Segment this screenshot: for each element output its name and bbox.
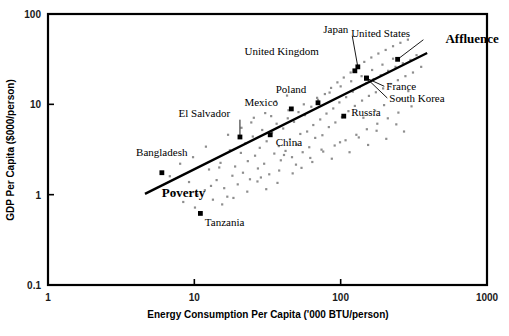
- data-point: [382, 87, 384, 89]
- data-point: [284, 150, 286, 152]
- data-point: [273, 152, 275, 154]
- data-point: [263, 163, 265, 165]
- data-point: [223, 187, 225, 189]
- data-point: [355, 134, 357, 136]
- data-point: [325, 112, 327, 114]
- data-point: [218, 166, 220, 168]
- country-marker: [238, 135, 243, 140]
- data-point: [247, 160, 249, 162]
- country-marker: [364, 76, 369, 81]
- country-marker: [289, 107, 294, 112]
- data-point: [257, 167, 259, 169]
- country-label: Bangladesh: [136, 146, 188, 158]
- data-point: [385, 49, 387, 51]
- data-point: [219, 162, 221, 164]
- data-point: [265, 188, 267, 190]
- data-point: [334, 144, 336, 146]
- unlabeled-points-group: [169, 39, 423, 209]
- data-point: [240, 152, 242, 154]
- data-point: [310, 106, 312, 108]
- country-label: Tanzania: [205, 216, 245, 228]
- data-point: [242, 172, 244, 174]
- data-point: [376, 123, 378, 125]
- trend-line: [145, 53, 427, 194]
- data-point: [231, 175, 233, 177]
- data-point: [387, 117, 389, 119]
- poverty-annotation: Poverty: [162, 185, 206, 200]
- figure-container: 11010010000.1110100 BangladeshTanzaniaEl…: [0, 0, 509, 336]
- data-point: [412, 71, 414, 73]
- data-point: [306, 130, 308, 132]
- x-tick-label: 1: [45, 292, 51, 303]
- data-point: [381, 64, 383, 66]
- data-point: [392, 45, 394, 47]
- data-point: [314, 137, 316, 139]
- country-label: United Kingdom: [244, 45, 319, 57]
- data-point: [312, 124, 314, 126]
- data-point: [370, 56, 372, 58]
- data-point: [259, 147, 261, 149]
- x-axis-title: Energy Consumption Per Capita ('000 BTU/…: [147, 309, 388, 320]
- data-point: [350, 71, 352, 73]
- trendline-group: [145, 53, 427, 194]
- data-point: [399, 42, 401, 44]
- data-point: [287, 117, 289, 119]
- country-marker: [341, 114, 346, 119]
- country-label: United States: [351, 27, 410, 39]
- data-point: [336, 81, 338, 83]
- data-point: [169, 175, 171, 177]
- data-point: [363, 61, 365, 63]
- data-point: [268, 173, 270, 175]
- data-point: [375, 91, 377, 93]
- country-label: El Salvador: [179, 107, 231, 119]
- data-point: [316, 97, 318, 99]
- country-label: Mexico: [244, 96, 278, 108]
- data-point: [188, 181, 190, 183]
- data-point: [270, 115, 272, 117]
- data-point: [340, 85, 342, 87]
- data-point: [360, 75, 362, 77]
- data-point: [410, 105, 412, 107]
- x-tick-label: 100: [332, 292, 349, 303]
- data-point: [212, 199, 214, 201]
- data-point: [252, 135, 254, 137]
- data-point: [256, 180, 258, 182]
- data-point: [280, 159, 282, 161]
- leader-line: [352, 36, 358, 67]
- data-point: [276, 123, 278, 125]
- data-point: [321, 134, 323, 136]
- data-point: [311, 161, 313, 163]
- data-point: [392, 58, 394, 60]
- data-point: [415, 54, 417, 56]
- data-point: [179, 163, 181, 165]
- data-point: [344, 139, 346, 141]
- data-point: [237, 183, 239, 185]
- country-label: France: [386, 80, 416, 92]
- y-tick-label: 1: [35, 190, 41, 201]
- country-marker: [355, 64, 360, 69]
- data-point: [295, 164, 297, 166]
- data-point: [221, 203, 223, 205]
- data-point: [192, 156, 194, 158]
- data-point: [375, 130, 377, 132]
- data-point: [266, 140, 268, 142]
- country-label: South Korea: [389, 92, 444, 104]
- data-point: [377, 52, 379, 54]
- y-tick-label: 0.1: [27, 280, 41, 291]
- data-point: [358, 136, 360, 138]
- data-point: [348, 151, 350, 153]
- data-point: [366, 128, 368, 130]
- data-point: [395, 123, 397, 125]
- x-tick-label: 10: [189, 292, 201, 303]
- data-point: [368, 95, 370, 97]
- data-point: [345, 96, 347, 98]
- y-tick-label: 10: [30, 99, 42, 110]
- data-point: [320, 149, 322, 151]
- data-point: [278, 169, 280, 171]
- data-point: [371, 69, 373, 71]
- data-point: [308, 146, 310, 148]
- data-point: [397, 112, 399, 114]
- data-point: [205, 146, 207, 148]
- data-point: [328, 91, 330, 93]
- country-label: Japan: [323, 23, 349, 35]
